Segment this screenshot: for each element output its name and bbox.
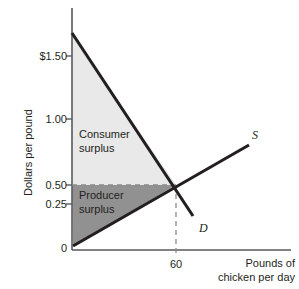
producer-surplus-label-line1: Producer [79, 189, 124, 202]
y-tick-label-150: $1.50 [19, 51, 67, 62]
x-axis-title-line1: Pounds of [199, 257, 295, 270]
consumer-surplus-label-line2: surplus [79, 142, 114, 155]
demand-curve-label: D [199, 222, 208, 234]
x-tick-label-60: 60 [160, 259, 192, 270]
y-tick-label-0: 0 [19, 243, 67, 254]
surplus-chart-figure: $1.50 1.00 0.50 0.25 0 Dollars per pound… [0, 0, 299, 289]
x-axis-title-line2: chicken per day [199, 271, 295, 284]
y-tick-label-025: 0.25 [19, 199, 67, 210]
consumer-surplus-label-line1: Consumer [79, 128, 130, 141]
y-axis-title: Dollars per pound [22, 109, 34, 196]
supply-curve-label: S [252, 129, 258, 141]
producer-surplus-label-line2: surplus [79, 203, 114, 216]
